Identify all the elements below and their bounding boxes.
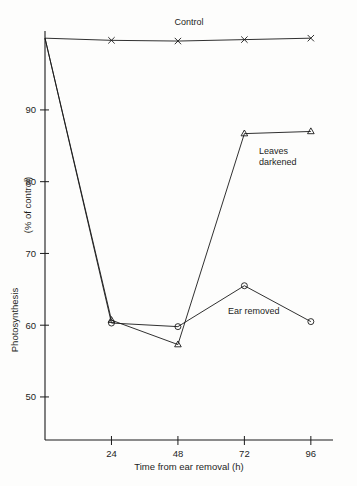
series-line-leaves-darkened: [45, 38, 311, 344]
x-tick-label: 96: [306, 448, 317, 459]
series-label-leaves-darkened-line1: Leaves: [259, 146, 289, 156]
series-lines-group: [45, 38, 311, 344]
y-tick-label: 60: [25, 320, 36, 331]
y-tick-label: 70: [25, 248, 36, 259]
y-axis-title-part1: Photosynthesis: [9, 288, 20, 353]
photosynthesis-line-chart: 5060708090 24487296 Time from ear remova…: [0, 0, 357, 486]
x-axis-title: Time from ear removal (h): [134, 461, 243, 472]
series-line-ear-removed: [45, 38, 311, 326]
chart-figure: 5060708090 24487296 Time from ear remova…: [0, 0, 357, 486]
y-tick-label: 90: [25, 104, 36, 115]
series-label-ear-removed: Ear removed: [228, 306, 280, 316]
triangle-marker-leaves-darkened: [308, 128, 315, 134]
x-tick-label: 72: [239, 448, 250, 459]
series-label-leaves-darkened-line2: darkened: [259, 157, 297, 167]
x-tick-label: 48: [173, 448, 184, 459]
y-tick-label: 50: [25, 391, 36, 402]
y-axis-title-part2: (% of control): [22, 177, 33, 234]
x-tick-label: 24: [106, 448, 117, 459]
series-label-control: Control: [174, 17, 203, 27]
axis-group: [45, 31, 333, 440]
series-markers-group: [108, 35, 314, 347]
